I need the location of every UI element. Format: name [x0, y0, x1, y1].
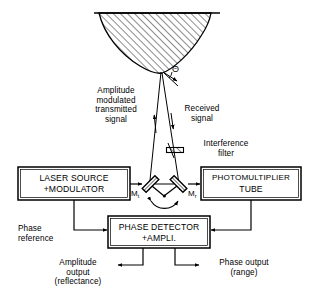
phase-output-label: Phase output (range)	[204, 258, 284, 277]
phase-reference-label: Phase reference	[18, 224, 74, 243]
mirror-assembly-group	[142, 176, 187, 209]
phase-output-wire	[175, 248, 199, 265]
mirror-pivot	[163, 195, 166, 198]
rotation-arrow	[151, 201, 178, 208]
mirror-mt-label: Mt	[131, 189, 139, 199]
mirror-mt-letter: M	[131, 189, 138, 198]
mirror-mt-subscript: t	[138, 193, 140, 199]
mirror-mr-label: Mr	[188, 189, 197, 199]
transmitted-signal-label: Amplitude modulated transmitted signal	[78, 86, 154, 124]
mirror-mr-letter: M	[188, 189, 195, 198]
theta-symbol-label: Θ	[172, 64, 179, 74]
interference-filter-label: Interference filter	[183, 139, 269, 158]
diagram-canvas: Amplitude modulated transmitted signal R…	[0, 0, 314, 302]
target-surface-group	[94, 13, 220, 73]
pmt-to-detector-wire	[211, 200, 251, 230]
phase-reference-wire	[74, 200, 107, 230]
received-signal-label: Received signal	[166, 104, 238, 123]
hatched-target-body	[99, 13, 211, 73]
phase-detector-label-line2: +AMPLI.	[108, 233, 210, 244]
phase-detector-label-line1: PHASE DETECTOR	[108, 222, 210, 233]
amplitude-output-label: Amplitude output (reflectance)	[38, 258, 118, 287]
mirror-mr-subscript: r	[195, 193, 197, 199]
laser-source-label-line2: +MODULATOR	[18, 184, 130, 195]
photomultiplier-label-line2: TUBE	[201, 184, 301, 195]
amplitude-output-wire	[118, 248, 143, 265]
photomultiplier-label-line1: PHOTOMULTIPLIER	[199, 173, 303, 184]
theta-angle-group	[163, 72, 178, 86]
laser-source-label-line1: LASER SOURCE	[18, 173, 130, 184]
